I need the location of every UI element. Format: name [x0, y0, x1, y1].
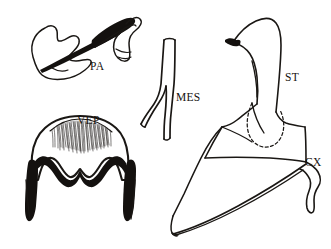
anatomical-line-drawing: PA [0, 0, 331, 249]
label-vep: VEP [77, 114, 100, 126]
label-cx: CX [305, 156, 322, 168]
label-st: ST [285, 71, 299, 83]
label-mes: MES [176, 91, 201, 103]
figure-container: PA [0, 0, 331, 249]
label-pa: PA [90, 60, 105, 72]
st-eye-spot [235, 40, 240, 45]
